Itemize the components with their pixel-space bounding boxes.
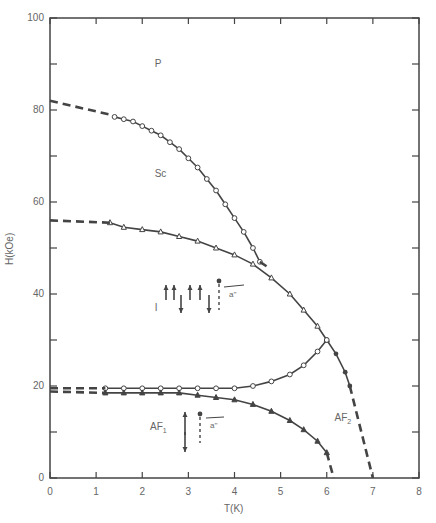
data-point-triangle (177, 234, 182, 239)
phase-diagram-plot: a''a'' (0, 0, 436, 523)
series-line (105, 340, 326, 388)
data-point-circle (186, 156, 191, 161)
x-tick-label: 1 (93, 486, 99, 497)
data-point-circle (214, 188, 219, 193)
data-point-circle (232, 216, 237, 221)
spin-down-arrow-head (207, 308, 212, 313)
x-tick-label: 7 (370, 486, 376, 497)
data-point-circle (121, 117, 126, 122)
x-tick-label: 6 (324, 486, 330, 497)
data-point-circle (131, 119, 136, 124)
data-point-triangle (195, 238, 200, 243)
spin-up-arrow-head (198, 285, 203, 290)
data-point-circle (204, 177, 209, 182)
data-point-triangle (140, 227, 145, 232)
data-point-triangle (158, 229, 163, 234)
af1-spin-down-arrow-head (183, 447, 188, 452)
x-tick-label: 5 (278, 486, 284, 497)
data-point-circle (158, 133, 163, 138)
data-point-circle (315, 349, 320, 354)
data-point-circle (149, 128, 154, 133)
data-point-circle (140, 124, 145, 129)
spin-up-arrow-head (188, 285, 193, 290)
spin-in-plane-dot (217, 279, 222, 284)
af1-in-plane-dot (198, 412, 203, 417)
dashed-extrapolation (50, 392, 105, 393)
af1-a-axis-label: a'' (210, 421, 218, 430)
x-tick-label: 3 (186, 486, 192, 497)
data-point-triangle (301, 427, 306, 432)
data-point-circle (287, 372, 292, 377)
y-tick-label: 20 (14, 380, 44, 391)
data-point-circle (223, 202, 228, 207)
data-point-circle (301, 363, 306, 368)
data-point-circle (269, 379, 274, 384)
dashed-extrapolation (350, 386, 373, 478)
y-tick-label: 0 (14, 472, 44, 483)
y-tick-label: 80 (14, 104, 44, 115)
data-point-circle (232, 386, 237, 391)
region-label-af1: AF1 (150, 421, 167, 434)
af1-spin-up-arrow-head (183, 412, 188, 417)
a-axis-label: a'' (229, 290, 237, 299)
data-point-triangle (158, 390, 163, 395)
data-point-triangle (121, 390, 126, 395)
y-tick-label: 100 (14, 12, 44, 23)
data-point-circle (214, 386, 219, 391)
dashed-extrapolation (50, 101, 110, 115)
spin-up-arrow-head (172, 285, 177, 290)
data-point-circle (241, 230, 246, 235)
dashed-extrapolation (327, 453, 334, 478)
af1-a-axis-arrow (206, 417, 224, 418)
x-tick-label: 8 (416, 486, 422, 497)
series-line (327, 340, 350, 386)
data-point-circle (195, 165, 200, 170)
dashed-extrapolation (50, 220, 110, 222)
y-tick-label: 60 (14, 196, 44, 207)
data-point-circle (112, 115, 117, 120)
data-point-triangle (140, 390, 145, 395)
data-point-triangle (195, 392, 200, 397)
data-point-circle (324, 338, 329, 343)
x-tick-label: 2 (139, 486, 145, 497)
region-label-i: I (155, 302, 158, 313)
region-label-p: P (155, 58, 162, 69)
data-point-triangle (213, 245, 218, 250)
x-tick-label: 0 (47, 486, 53, 497)
data-point-filled (343, 370, 348, 375)
data-point-triangle (287, 418, 292, 423)
spin-up-arrow-head (164, 285, 169, 290)
data-point-triangle (250, 401, 255, 406)
data-point-circle (251, 384, 256, 389)
data-point-triangle (232, 397, 237, 402)
data-point-triangle (213, 395, 218, 400)
data-point-triangle (250, 261, 255, 266)
data-point-circle (251, 246, 256, 251)
data-point-filled (334, 351, 339, 356)
data-point-triangle (177, 390, 182, 395)
data-point-triangle (121, 224, 126, 229)
spin-down-arrow-head (179, 308, 184, 313)
y-tick-label: 40 (14, 288, 44, 299)
region-label-af2: AF2 (335, 412, 352, 425)
data-point-circle (195, 386, 200, 391)
data-point-circle (168, 140, 173, 145)
plot-frame (50, 18, 419, 478)
series-line (115, 117, 260, 262)
y-axis-title: H(kOe) (4, 233, 15, 265)
a-axis-arrow (224, 285, 244, 287)
x-axis-title: T(K) (224, 503, 243, 514)
data-point-triangle (269, 408, 274, 413)
region-label-sc: Sc (155, 168, 167, 179)
x-tick-label: 4 (232, 486, 238, 497)
data-point-circle (177, 147, 182, 152)
data-point-triangle (232, 252, 237, 257)
